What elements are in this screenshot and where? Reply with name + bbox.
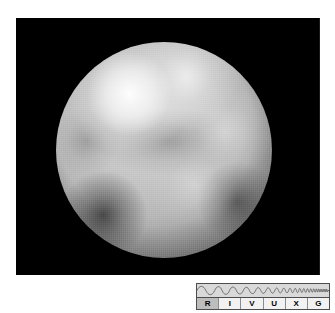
astronomical-image-panel (16, 18, 320, 275)
spectrum-band-radio: R (197, 298, 219, 309)
spectrum-band-gamma: G (308, 298, 329, 309)
spectrum-waveform-row (197, 284, 329, 298)
spectrum-band-labels: R I V U X G (197, 298, 329, 309)
figure-root: R I V U X G (0, 0, 335, 313)
spectrum-waveform-icon (197, 284, 329, 297)
spectrum-band-infrared: I (219, 298, 241, 309)
spectrum-band-visible: V (241, 298, 263, 309)
rivuxg-wavelength-indicator: R I V U X G (196, 283, 330, 310)
planet-disc (56, 42, 272, 258)
spectrum-band-xray: X (286, 298, 308, 309)
spectrum-band-ultraviolet: U (264, 298, 286, 309)
